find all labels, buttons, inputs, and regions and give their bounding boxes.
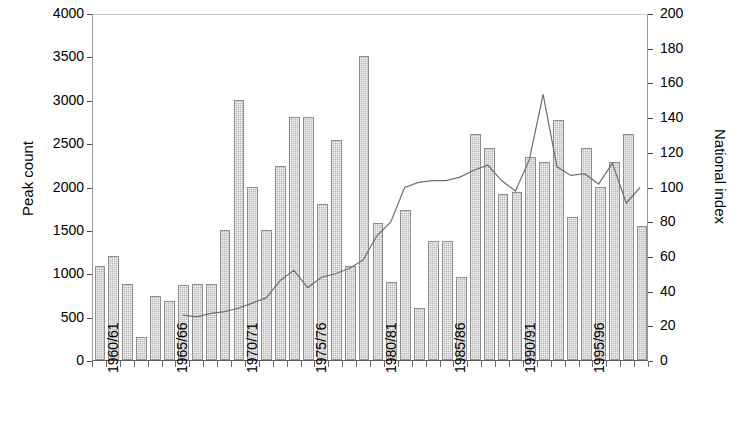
- y-axis-left-tick-label: 500: [36, 309, 84, 325]
- national-index-line: [183, 94, 640, 317]
- tick-mark: [203, 361, 204, 367]
- x-axis-tick-label: 1985/86: [452, 322, 468, 373]
- y-axis-left-tick-label: 2500: [36, 135, 84, 151]
- x-axis-tick-label: 1965/66: [174, 322, 190, 373]
- tick-mark: [87, 318, 92, 319]
- tick-mark: [412, 361, 413, 367]
- tick-mark: [648, 361, 649, 367]
- y-axis-right-tick-label: 180: [660, 40, 708, 56]
- x-axis-tick-label: 1975/76: [313, 322, 329, 373]
- y-axis-right-tick-label: 100: [660, 179, 708, 195]
- tick-mark: [87, 274, 92, 275]
- tick-mark: [648, 118, 653, 119]
- y-axis-left-title: Peak count: [19, 119, 36, 239]
- y-axis-right-tick-label: 160: [660, 74, 708, 90]
- y-axis-right-title: National index: [712, 112, 729, 242]
- tick-mark: [620, 361, 621, 367]
- x-axis-tick-label: 1960/61: [105, 322, 121, 373]
- y-axis-left-tick-label: 1000: [36, 265, 84, 281]
- x-axis-tick-label: 1970/71: [244, 322, 260, 373]
- tick-mark: [342, 361, 343, 367]
- tick-mark: [273, 361, 274, 367]
- tick-mark: [495, 361, 496, 367]
- x-axis-tick-label: 1990/91: [522, 322, 538, 373]
- tick-mark: [370, 361, 371, 367]
- chart-figure: Peak count National index 05001000150020…: [0, 0, 742, 439]
- tick-mark: [92, 361, 93, 367]
- tick-mark: [648, 292, 653, 293]
- tick-mark: [648, 83, 653, 84]
- tick-mark: [231, 361, 232, 367]
- tick-mark: [287, 361, 288, 367]
- tick-mark: [87, 188, 92, 189]
- tick-mark: [148, 361, 149, 367]
- y-axis-right-tick-label: 200: [660, 5, 708, 21]
- tick-mark: [87, 144, 92, 145]
- tick-mark: [87, 101, 92, 102]
- plot-area: [92, 14, 648, 361]
- tick-mark: [579, 361, 580, 367]
- tick-mark: [648, 326, 653, 327]
- y-axis-right-tick-label: 20: [660, 317, 708, 333]
- tick-mark: [648, 14, 653, 15]
- y-axis-right-tick-label: 140: [660, 109, 708, 125]
- tick-mark: [648, 153, 653, 154]
- y-axis-left-tick-label: 4000: [36, 5, 84, 21]
- tick-mark: [565, 361, 566, 367]
- tick-mark: [648, 188, 653, 189]
- tick-mark: [426, 361, 427, 367]
- y-axis-left-tick-label: 1500: [36, 222, 84, 238]
- y-axis-right-tick-label: 120: [660, 144, 708, 160]
- tick-mark: [481, 361, 482, 367]
- tick-mark: [648, 257, 653, 258]
- tick-mark: [551, 361, 552, 367]
- y-axis-left-tick-label: 2000: [36, 179, 84, 195]
- tick-mark: [648, 222, 653, 223]
- tick-mark: [301, 361, 302, 367]
- y-axis-left-tick-label: 3000: [36, 92, 84, 108]
- tick-mark: [509, 361, 510, 367]
- tick-mark: [217, 361, 218, 367]
- y-axis-left-tick-label: 3500: [36, 48, 84, 64]
- tick-mark: [87, 231, 92, 232]
- tick-mark: [162, 361, 163, 367]
- tick-mark: [134, 361, 135, 367]
- x-axis-tick-label: 1980/81: [383, 322, 399, 373]
- y-axis-left-tick-label: 0: [36, 352, 84, 368]
- y-axis-right-tick-label: 40: [660, 283, 708, 299]
- tick-mark: [648, 49, 653, 50]
- tick-mark: [634, 361, 635, 367]
- tick-mark: [440, 361, 441, 367]
- y-axis-right-tick-label: 80: [660, 213, 708, 229]
- y-axis-right-tick-label: 60: [660, 248, 708, 264]
- line-series-layer: [93, 15, 647, 360]
- y-axis-right-tick-label: 0: [660, 352, 708, 368]
- x-axis-tick-label: 1995/96: [591, 322, 607, 373]
- tick-mark: [356, 361, 357, 367]
- tick-mark: [87, 57, 92, 58]
- tick-mark: [87, 14, 92, 15]
